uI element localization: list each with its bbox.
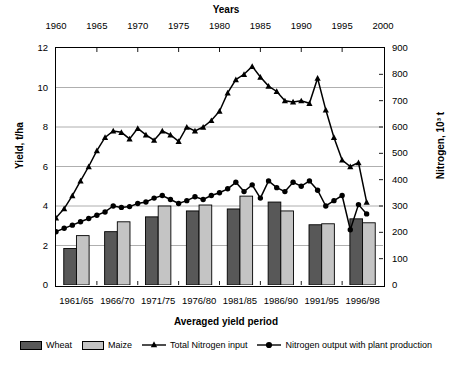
legend-item-wheat: Wheat: [20, 340, 72, 350]
triangle-marker-icon: [142, 340, 166, 350]
chart-legend: Wheat Maize Total Nitrogen input Nitroge…: [0, 340, 452, 350]
marker-nitrogen-output-19: [209, 193, 214, 198]
marker-nitrogen-input-35: [339, 157, 345, 163]
marker-nitrogen-output-20: [217, 190, 222, 195]
category-label-7: 1996/98: [335, 295, 391, 306]
marker-nitrogen-output-7: [111, 203, 116, 208]
right-tick-100: 100: [392, 253, 422, 264]
marker-nitrogen-input-33: [323, 107, 329, 113]
marker-nitrogen-output-15: [176, 201, 181, 206]
legend-item-nitrogen-output: Nitrogen output with plant production: [257, 340, 432, 350]
bar-maize-0: [76, 236, 89, 285]
marker-nitrogen-output-0: [56, 229, 59, 234]
legend-label-nitrogen-input: Total Nitrogen input: [170, 340, 248, 350]
marker-nitrogen-output-23: [241, 189, 246, 194]
right-tick-800: 800: [392, 68, 422, 79]
marker-nitrogen-output-3: [78, 219, 83, 224]
marker-nitrogen-output-38: [364, 211, 369, 216]
marker-nitrogen-output-9: [127, 204, 132, 209]
left-tick-8: 8: [24, 121, 48, 132]
legend-item-maize: Maize: [82, 340, 132, 350]
marker-nitrogen-output-24: [250, 182, 255, 187]
marker-nitrogen-output-6: [102, 209, 107, 214]
right-tick-0: 0: [392, 279, 422, 290]
marker-nitrogen-output-29: [290, 180, 295, 185]
marker-nitrogen-input-2: [69, 192, 75, 198]
top-tick-1985: 1985: [240, 20, 280, 31]
marker-nitrogen-output-10: [135, 201, 140, 206]
marker-nitrogen-output-14: [168, 197, 173, 202]
right-tick-200: 200: [392, 226, 422, 237]
marker-nitrogen-output-28: [282, 189, 287, 194]
legend-item-nitrogen-input: Total Nitrogen input: [142, 340, 248, 350]
bar-maize-1: [117, 222, 130, 285]
marker-nitrogen-output-25: [258, 195, 263, 200]
top-tick-1990: 1990: [281, 20, 321, 31]
marker-nitrogen-input-3: [77, 178, 83, 184]
marker-nitrogen-output-5: [94, 213, 99, 218]
marker-nitrogen-output-36: [348, 227, 353, 232]
marker-nitrogen-output-12: [151, 195, 156, 200]
x-axis-title: Averaged yield period: [0, 316, 452, 327]
marker-nitrogen-output-13: [160, 193, 165, 198]
marker-nitrogen-output-22: [233, 180, 238, 185]
legend-label-wheat: Wheat: [46, 340, 72, 350]
marker-nitrogen-output-27: [274, 185, 279, 190]
marker-nitrogen-output-4: [86, 216, 91, 221]
right-tick-300: 300: [392, 200, 422, 211]
left-tick-4: 4: [24, 200, 48, 211]
marker-nitrogen-input-10: [135, 125, 141, 131]
bar-wheat-5: [268, 202, 281, 285]
right-tick-900: 900: [392, 42, 422, 53]
marker-nitrogen-input-20: [216, 108, 222, 114]
marker-nitrogen-input-13: [159, 128, 165, 134]
circle-marker-icon: [257, 340, 281, 350]
right-tick-600: 600: [392, 121, 422, 132]
chart-figure: Years 1960196519701975198019851990199520…: [0, 0, 452, 368]
marker-nitrogen-output-31: [307, 178, 312, 183]
marker-nitrogen-output-32: [315, 188, 320, 193]
bar-wheat-4: [227, 209, 240, 285]
top-tick-1980: 1980: [200, 20, 240, 31]
left-tick-0: 0: [24, 279, 48, 290]
marker-nitrogen-output-34: [331, 198, 336, 203]
legend-label-nitrogen-output: Nitrogen output with plant production: [285, 340, 432, 350]
bar-maize-6: [322, 224, 335, 285]
top-tick-2000: 2000: [363, 20, 403, 31]
marker-nitrogen-input-32: [315, 75, 321, 81]
bar-maize-2: [158, 206, 171, 285]
left-tick-2: 2: [24, 240, 48, 251]
left-tick-12: 12: [24, 42, 48, 53]
top-tick-1995: 1995: [322, 20, 362, 31]
marker-nitrogen-output-26: [266, 178, 271, 183]
bar-wheat-6: [309, 225, 322, 285]
marker-nitrogen-output-17: [192, 194, 197, 199]
top-tick-1960: 1960: [36, 20, 76, 31]
marker-nitrogen-output-11: [143, 199, 148, 204]
top-tick-1975: 1975: [159, 20, 199, 31]
bar-maize-5: [281, 211, 294, 285]
bar-maize-7: [363, 223, 376, 285]
bar-wheat-0: [64, 248, 77, 285]
right-axis-title: Nitrogen, 10³ t: [435, 76, 446, 216]
marker-nitrogen-input-24: [249, 63, 255, 69]
marker-nitrogen-output-18: [200, 197, 205, 202]
bar-wheat-1: [105, 232, 118, 285]
bar-wheat-2: [146, 217, 159, 285]
left-tick-10: 10: [24, 82, 48, 93]
legend-label-maize: Maize: [108, 340, 132, 350]
bar-maize-4: [240, 196, 253, 285]
top-tick-1965: 1965: [77, 20, 117, 31]
marker-nitrogen-output-8: [119, 205, 124, 210]
right-tick-500: 500: [392, 147, 422, 158]
bar-wheat-3: [186, 211, 199, 285]
right-tick-700: 700: [392, 95, 422, 106]
marker-nitrogen-input-34: [331, 134, 337, 140]
left-tick-6: 6: [24, 161, 48, 172]
marker-nitrogen-output-33: [323, 203, 328, 208]
top-tick-1970: 1970: [118, 20, 158, 31]
chart-canvas: [56, 48, 383, 285]
wheat-swatch-icon: [20, 341, 42, 350]
plot-area: [55, 47, 385, 287]
marker-nitrogen-output-21: [225, 186, 230, 191]
